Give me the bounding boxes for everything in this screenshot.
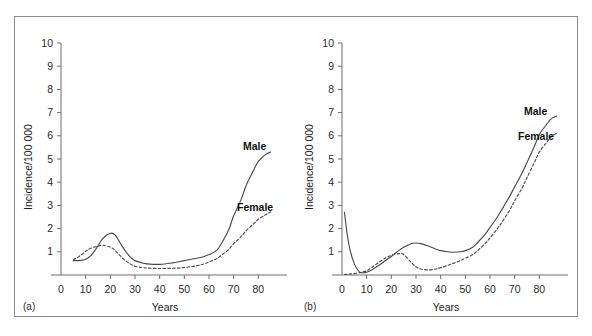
x-tick-label: 0 xyxy=(339,283,345,295)
panel-caption-b: (b) xyxy=(304,301,316,312)
y-axis-ticks-a: 12345678910 xyxy=(41,37,61,258)
y-tick-label: 8 xyxy=(328,83,334,95)
x-tick-label: 60 xyxy=(484,283,496,295)
x-tick-label: 80 xyxy=(252,283,264,295)
y-tick-label: 1 xyxy=(47,245,53,257)
y-tick-label: 4 xyxy=(47,176,53,188)
series-label-male-a: Male xyxy=(243,140,267,152)
y-axis-label-b: Incidence/100 000 xyxy=(303,124,315,210)
y-tick-label: 2 xyxy=(328,222,334,234)
y-tick-label: 4 xyxy=(328,176,334,188)
x-tick-label: 30 xyxy=(129,283,141,295)
x-tick-label: 10 xyxy=(361,283,373,295)
chart-panel-b: Incidence/100 000 12345678910 0102030405… xyxy=(296,17,577,316)
x-tick-label: 50 xyxy=(178,283,190,295)
y-tick-label: 7 xyxy=(47,106,53,118)
y-tick-label: 5 xyxy=(328,153,334,165)
y-tick-label: 6 xyxy=(328,129,334,141)
x-axis-label-b: Years xyxy=(433,301,459,313)
x-axis-label-a: Years xyxy=(152,301,178,313)
y-tick-label: 8 xyxy=(47,83,53,95)
x-tick-label: 30 xyxy=(410,283,422,295)
x-tick-label: 40 xyxy=(435,283,447,295)
x-tick-label: 20 xyxy=(104,283,116,295)
y-tick-label: 6 xyxy=(47,129,53,141)
y-tick-label: 3 xyxy=(328,199,334,211)
x-tick-label: 20 xyxy=(385,283,397,295)
y-tick-label: 2 xyxy=(47,222,53,234)
y-tick-label: 10 xyxy=(41,37,53,49)
x-tick-label: 80 xyxy=(533,283,545,295)
chart-panel-a: Incidence/100 000 12345678910 0102030405… xyxy=(15,17,296,316)
series-line-female-b xyxy=(344,133,556,274)
y-tick-label: 7 xyxy=(328,106,334,118)
x-tick-label: 60 xyxy=(203,283,215,295)
chart-plot-b: Incidence/100 000 12345678910 0102030405… xyxy=(296,17,577,316)
x-tick-label: 0 xyxy=(58,283,64,295)
y-tick-label: 9 xyxy=(47,60,53,72)
y-tick-label: 5 xyxy=(47,153,53,165)
x-tick-label: 10 xyxy=(80,283,92,295)
y-axis-label-a: Incidence/100 000 xyxy=(22,124,34,210)
chart-plot-a: Incidence/100 000 12345678910 0102030405… xyxy=(15,17,296,316)
series-label-male-b: Male xyxy=(524,105,548,117)
y-axis-ticks-b: 12345678910 xyxy=(322,37,342,258)
series-label-female-b: Female xyxy=(518,130,554,142)
figure-frame: Incidence/100 000 12345678910 0102030405… xyxy=(14,16,578,317)
y-tick-label: 10 xyxy=(322,37,334,49)
series-line-female-a xyxy=(73,212,270,269)
x-tick-label: 50 xyxy=(459,283,471,295)
x-axis-ticks-a: 01020304050607080 xyxy=(58,275,264,295)
panel-caption-a: (a) xyxy=(23,301,35,312)
x-tick-label: 70 xyxy=(228,283,240,295)
x-tick-label: 40 xyxy=(154,283,166,295)
y-tick-label: 1 xyxy=(328,245,334,257)
x-axis-ticks-b: 01020304050607080 xyxy=(339,275,545,295)
y-tick-label: 3 xyxy=(47,199,53,211)
series-label-female-a: Female xyxy=(237,201,273,213)
x-tick-label: 70 xyxy=(509,283,521,295)
y-tick-label: 9 xyxy=(328,60,334,72)
